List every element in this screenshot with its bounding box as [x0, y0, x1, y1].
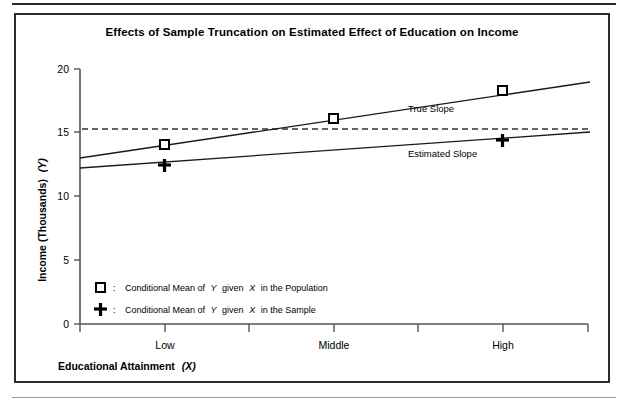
- chart-plot-area: 20 15 10 5 0 Income (Thousands) (Y): [0, 0, 624, 402]
- y-axis-title-var: (Y): [36, 158, 48, 173]
- figure-page: Effects of Sample Truncation on Estimate…: [0, 0, 624, 402]
- legend-separator-population: :: [113, 283, 116, 293]
- legend-item-population: : Conditional Mean of Y given X in the P…: [96, 283, 328, 293]
- sample-marker-low: [158, 159, 171, 172]
- legend-population-text-c: in the Population: [261, 283, 328, 293]
- population-marker-middle: [329, 114, 338, 123]
- y-axis-title-main: Income (Thousands): [36, 179, 48, 282]
- y-tick-label-15: 15: [57, 126, 69, 138]
- legend-label-sample: Conditional Mean of Y given X in the Sam…: [125, 305, 316, 315]
- legend-population-var-y: Y: [211, 283, 218, 293]
- legend-item-sample: : Conditional Mean of Y given X in the S…: [94, 303, 316, 316]
- y-tick-label-5: 5: [63, 254, 69, 266]
- bottom-horizontal-rule: [12, 397, 616, 398]
- true-slope-annotation: True Slope: [408, 103, 454, 114]
- legend-sample-text-b: given: [222, 305, 244, 315]
- y-tick-label-0: 0: [63, 318, 69, 330]
- legend-population-var-x: X: [248, 283, 256, 293]
- x-tick-label-middle: Middle: [319, 339, 350, 351]
- y-axis: 20 15 10 5 0 Income (Thousands) (Y): [36, 63, 80, 330]
- legend-separator-sample: :: [113, 305, 116, 315]
- legend-sample-text-a: Conditional Mean of: [125, 305, 206, 315]
- population-marker-high: [498, 86, 507, 95]
- x-axis: Low Middle High Educational Attainment (…: [58, 324, 588, 372]
- legend-population-text-a: Conditional Mean of: [125, 283, 206, 293]
- legend-plus-marker-icon: [94, 303, 107, 316]
- legend-sample-var-y: Y: [211, 305, 218, 315]
- chart-legend: : Conditional Mean of Y given X in the P…: [94, 283, 328, 316]
- legend-population-text-b: given: [222, 283, 244, 293]
- y-tick-label-20: 20: [57, 63, 69, 75]
- sample-marker-high: [496, 134, 509, 147]
- estimated-slope-line: [80, 132, 590, 168]
- x-axis-title: Educational Attainment (X): [58, 360, 196, 372]
- legend-sample-text-c: in the Sample: [261, 305, 316, 315]
- x-tick-label-low: Low: [155, 339, 175, 351]
- y-axis-title: Income (Thousands) (Y): [36, 158, 48, 282]
- x-axis-title-var: (X): [182, 360, 197, 372]
- legend-sample-var-x: X: [248, 305, 256, 315]
- population-marker-low: [160, 140, 169, 149]
- legend-label-population: Conditional Mean of Y given X in the Pop…: [125, 283, 328, 293]
- legend-square-marker-icon: [96, 283, 105, 292]
- y-tick-label-10: 10: [57, 190, 69, 202]
- x-tick-label-high: High: [492, 339, 514, 351]
- estimated-slope-annotation: Estimated Slope: [408, 148, 477, 159]
- x-axis-title-main: Educational Attainment: [58, 360, 175, 372]
